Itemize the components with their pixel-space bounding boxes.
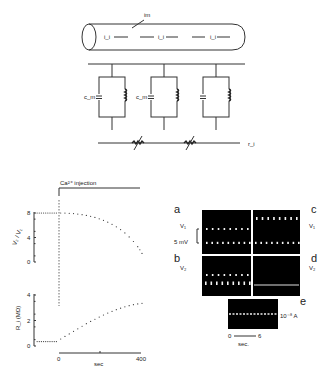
trace-c-baseline [260, 242, 262, 244]
membrane-current-label: im [144, 12, 150, 18]
scope-panels [202, 210, 300, 329]
trace-c-baseline [277, 242, 279, 244]
data-point [94, 319, 95, 320]
x-tick-label: 0 [57, 356, 61, 362]
data-point [56, 212, 57, 213]
junction-resistance-label: r_i [248, 141, 255, 147]
trace-a-v1 [212, 228, 214, 230]
trace-c-baseline [255, 242, 257, 244]
data-point [77, 328, 78, 329]
membrane-unit [200, 64, 231, 130]
data-point [81, 326, 82, 327]
data-point [124, 232, 125, 233]
data-point [54, 212, 55, 213]
y-tick-label: 4 [27, 292, 31, 298]
trace-b-baseline [238, 282, 240, 286]
trace-a-baseline [211, 242, 213, 244]
trace-c-v1 [267, 217, 269, 220]
trace-c-baseline [282, 242, 284, 244]
data-point [139, 249, 140, 250]
trace-a-v1 [218, 228, 220, 230]
trace-a-baseline [249, 242, 251, 244]
voltage-label-v2-right: V₂ [309, 265, 316, 271]
membrane-current-pointer: im [132, 12, 150, 28]
figure-canvas: im i_i i_i i_i r_i c_m c_m Ca²⁺ injectio… [0, 0, 335, 379]
data-point [111, 224, 112, 225]
trace-b-baseline [205, 282, 207, 286]
panel-label-e: e [300, 295, 306, 307]
data-point [45, 341, 46, 342]
y-tick-label: 0 [27, 343, 31, 349]
data-point [52, 212, 53, 213]
trace-a-v1 [247, 228, 249, 230]
trace-a-baseline [217, 242, 219, 244]
axial-current-label: i_i [104, 34, 110, 40]
voltage-label-v1: V₁ [180, 223, 186, 229]
data-point [39, 341, 40, 342]
unit-frame [203, 77, 229, 117]
data-point [47, 212, 48, 213]
trace-b-baseline [216, 282, 218, 286]
data-point [37, 212, 38, 213]
trace-a-baseline [233, 242, 235, 244]
current-scale-label: 10⁻⁸ A [280, 313, 298, 319]
data-point [56, 341, 57, 342]
data-point [49, 341, 50, 342]
data-point [129, 236, 130, 237]
voltage-label-v2: V₂ [180, 265, 187, 271]
trace-b-v2 [206, 274, 208, 276]
data-point [60, 212, 61, 213]
resistance-chart: R_i (MΩ) 0 400 sec 024 [15, 292, 147, 367]
trace-a-v1 [206, 228, 208, 230]
data-point [43, 341, 44, 342]
data-point [111, 311, 112, 312]
scope-panel-a [202, 210, 251, 254]
trace-a-baseline [244, 242, 246, 244]
voltage-scale-bar [197, 229, 199, 243]
capacitor-label: c_m [136, 94, 147, 100]
trace-b-v2 [247, 274, 249, 276]
data-point [124, 306, 125, 307]
voltage-scale-label: 5 mV [174, 239, 188, 245]
panel-label-c: c [311, 203, 317, 215]
data-point [99, 218, 100, 219]
data-point [47, 341, 48, 342]
panel-label-b: b [174, 252, 180, 264]
data-point [43, 212, 44, 213]
circuit-diagram: r_i c_m c_m [84, 64, 255, 150]
trace-a-v1 [235, 228, 237, 230]
data-point [64, 213, 65, 214]
scope-panel-c [253, 210, 300, 254]
trace-b-baseline [211, 282, 213, 286]
trace-a-baseline [222, 242, 224, 244]
trace-a-v1 [229, 228, 231, 230]
trace-c-baseline [287, 242, 289, 244]
unit-frame [151, 77, 177, 117]
trace-b-baseline [244, 282, 246, 286]
unit-frame [99, 77, 125, 117]
injection-label: Ca²⁺ injection [60, 180, 96, 186]
data-point [86, 323, 87, 324]
trace-c-v1 [273, 217, 275, 220]
membrane-unit [96, 64, 127, 130]
scope-panel-b [202, 256, 251, 296]
trace-a-baseline [238, 242, 240, 244]
data-point [116, 226, 117, 227]
data-point [45, 212, 46, 213]
data-point [77, 214, 78, 215]
membrane-unit [148, 64, 179, 130]
axial-current-label: i_i [210, 34, 216, 40]
data-point [133, 304, 134, 305]
data-point [141, 253, 142, 254]
trace-b-baseline [249, 282, 251, 286]
trace-b-baseline [233, 282, 235, 286]
data-point [49, 212, 50, 213]
data-point [69, 333, 70, 334]
trace-c-v1 [256, 217, 258, 220]
data-point [94, 217, 95, 218]
data-point [90, 321, 91, 322]
data-point [99, 316, 100, 317]
trace-b-v2 [241, 274, 243, 276]
data-point [81, 214, 82, 215]
data-point [107, 313, 108, 314]
